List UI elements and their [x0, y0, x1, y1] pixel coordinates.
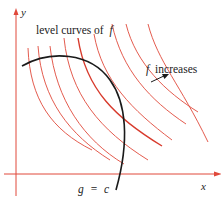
y-axis-arrow-icon: [14, 8, 19, 15]
level-curve-2: [38, 46, 110, 160]
level-curve-9: [148, 24, 208, 142]
constraint-equals: =: [91, 183, 98, 195]
f-increases-text: increases: [155, 63, 198, 75]
lagrange-diagram: y x level curves of f f increases g = c: [0, 0, 221, 200]
f-increases-f: f: [146, 63, 151, 76]
x-axis-arrow-icon: [214, 172, 221, 177]
level-curve-6: [94, 34, 172, 140]
constraint-label: g = c: [78, 183, 109, 196]
constraint-g: g: [78, 183, 84, 196]
level-curves-label-text: level curves of: [36, 24, 104, 36]
constraint-c: c: [104, 183, 109, 195]
level-curve-1: [28, 48, 92, 150]
y-axis-label: y: [20, 6, 26, 18]
level-curves-label: level curves of f: [36, 24, 115, 37]
x-axis-label: x: [200, 180, 206, 192]
f-increases-label: f increases: [146, 63, 198, 76]
